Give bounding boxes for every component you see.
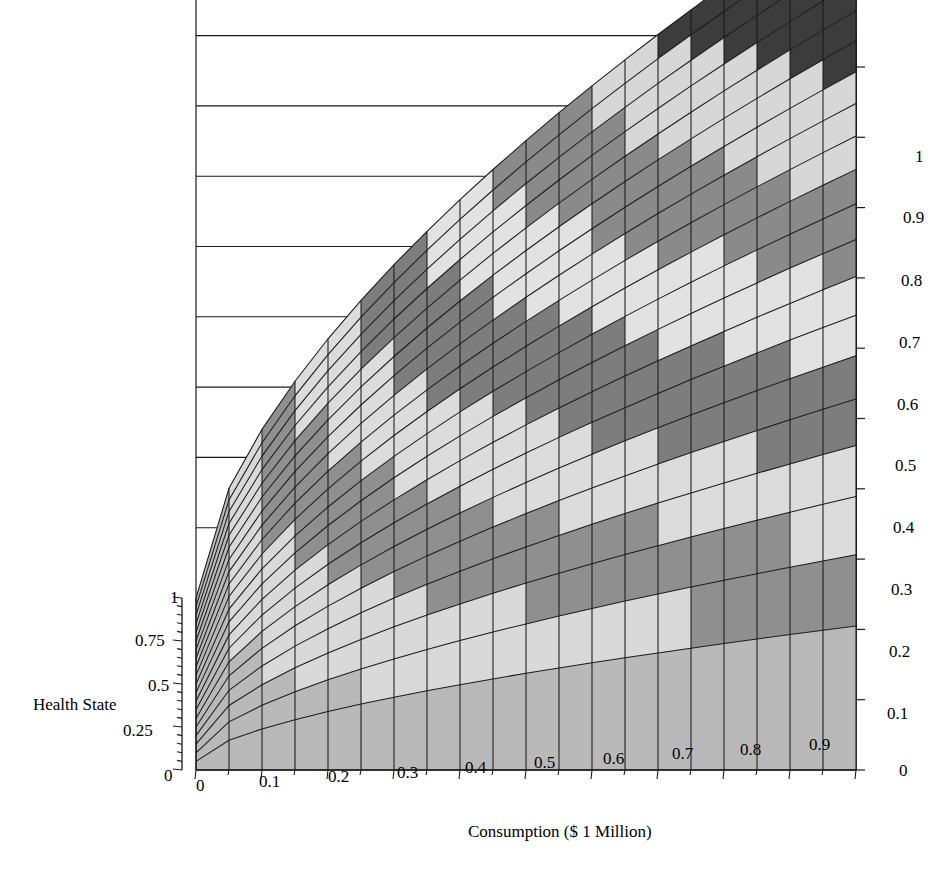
x-axis-title: Consumption ($ 1 Million) [468, 822, 652, 842]
y-tick-mark-6 [177, 717, 182, 718]
surface-cell [724, 574, 757, 644]
y-axis-title: Health State [33, 695, 117, 715]
z-tick-6: 0.4 [893, 518, 914, 538]
surface-cell [394, 691, 427, 770]
x-tick-0: 0 [196, 776, 205, 796]
surface-plot-svg [0, 0, 949, 882]
x-tick-mark-18 [789, 770, 790, 779]
surface-cell [493, 673, 526, 770]
y-tick-mark-11 [177, 674, 182, 675]
z-tick-0: 1 [915, 147, 924, 167]
x-tick-mark-7 [426, 770, 427, 775]
surface-cell [460, 679, 493, 770]
y-tick-mark-0 [173, 769, 182, 770]
y-axis [173, 597, 182, 770]
x-tick-7: 0.7 [672, 744, 693, 764]
y-tick-mark-8 [177, 700, 182, 701]
y-tick-mark-4 [177, 735, 182, 736]
figure-container: Attribute Dominance Utility Surface Heal… [0, 0, 949, 882]
surface-cell [823, 497, 856, 561]
x-tick-mark-5 [360, 770, 361, 775]
surface-cell [625, 546, 658, 601]
surface-cell [790, 455, 823, 513]
y-tick-mark-7 [177, 709, 182, 710]
x-tick-4: 0.4 [465, 758, 486, 778]
surface-cell [295, 712, 328, 771]
surface-cell [691, 580, 724, 648]
y-tick-mark-16 [177, 631, 182, 632]
x-tick-mark-13 [624, 770, 625, 775]
x-tick-5: 0.5 [534, 753, 555, 773]
z-tick-3: 0.7 [899, 333, 920, 353]
z-tick-9: 0.1 [887, 704, 908, 724]
x-tick-8: 0.8 [740, 740, 761, 760]
y-tick-3: 0.25 [123, 721, 153, 741]
y-tick-mark-18 [177, 614, 182, 615]
surface-cell [625, 594, 658, 658]
surface-cell [592, 601, 625, 663]
z-axis [856, 67, 865, 770]
surface-cell [790, 561, 823, 635]
y-tick-mark-2 [177, 752, 182, 753]
z-tick-7: 0.3 [891, 580, 912, 600]
y-tick-mark-14 [177, 649, 182, 650]
surface-cell [823, 446, 856, 505]
z-tick-1: 0.9 [903, 208, 924, 228]
surface-cell [658, 587, 691, 653]
y-tick-mark-10 [173, 683, 182, 684]
y-tick-mark-17 [177, 623, 182, 624]
x-tick-mark-19 [822, 770, 823, 775]
y-tick-2: 0.5 [148, 676, 169, 696]
z-tick-2: 0.8 [901, 271, 922, 291]
x-tick-mark-10 [525, 770, 526, 779]
y-tick-mark-9 [177, 692, 182, 693]
x-tick-1: 0.1 [259, 772, 280, 792]
surface-cell [757, 567, 790, 639]
surface-cell [427, 685, 460, 770]
x-tick-2: 0.2 [328, 767, 349, 787]
x-tick-mark-20 [855, 770, 856, 779]
y-tick-0: 1 [170, 588, 179, 608]
figure-caption [175, 868, 775, 882]
surface-cell [328, 704, 361, 770]
surface-cell [658, 537, 691, 594]
surface-cell [757, 635, 790, 770]
y-tick-mark-15 [173, 640, 182, 641]
x-tick-mark-11 [558, 770, 559, 775]
x-tick-mark-14 [657, 770, 658, 779]
x-tick-mark-12 [591, 770, 592, 779]
x-axis [195, 770, 856, 779]
y-tick-4: 0 [164, 766, 173, 786]
x-tick-mark-8 [459, 770, 460, 779]
x-tick-mark-3 [294, 770, 295, 775]
x-tick-9: 0.9 [809, 735, 830, 755]
y-tick-mark-3 [177, 743, 182, 744]
z-tick-10: 0 [899, 761, 908, 781]
x-tick-6: 0.6 [603, 749, 624, 769]
x-tick-mark-15 [690, 770, 691, 775]
x-tick-mark-6 [393, 770, 394, 779]
z-tick-5: 0.5 [895, 456, 916, 476]
surface-cell [559, 663, 592, 770]
y-tick-1: 0.75 [135, 631, 165, 651]
surface-cell [526, 616, 559, 673]
z-tick-8: 0.2 [889, 642, 910, 662]
surface-cell [724, 520, 757, 580]
x-tick-mark-16 [723, 770, 724, 779]
surface-cell [691, 644, 724, 770]
surface-cell [823, 555, 856, 631]
surface-cell [460, 632, 493, 685]
x-tick-mark-17 [756, 770, 757, 775]
y-tick-mark-12 [177, 666, 182, 667]
y-tick-mark-5 [173, 726, 182, 727]
surface-cell [559, 609, 592, 669]
x-tick-mark-9 [492, 770, 493, 775]
surface-cell [757, 512, 790, 574]
z-tick-4: 0.6 [897, 395, 918, 415]
x-tick-3: 0.3 [397, 763, 418, 783]
y-tick-mark-13 [177, 657, 182, 658]
x-tick-mark-1 [228, 770, 229, 775]
surface-cell [790, 504, 823, 567]
y-tick-mark-1 [177, 760, 182, 761]
surface-cell [691, 529, 724, 587]
